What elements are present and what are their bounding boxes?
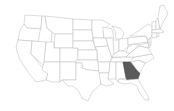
state-maine[interactable] — [158, 5, 168, 29]
state-rhode-island[interactable] — [157, 33, 159, 37]
state-south-dakota[interactable] — [73, 30, 93, 41]
state-arkansas[interactable] — [98, 62, 110, 73]
state-iowa[interactable] — [93, 38, 108, 47]
state-wisconsin[interactable] — [103, 27, 114, 38]
state-connecticut[interactable] — [152, 33, 157, 38]
state-new-mexico[interactable] — [60, 62, 76, 82]
state-wyoming[interactable] — [54, 34, 73, 48]
state-florida[interactable] — [118, 79, 149, 100]
state-washington[interactable] — [24, 15, 42, 29]
state-kansas[interactable] — [78, 50, 97, 60]
state-colorado[interactable] — [60, 48, 78, 62]
state-vermont[interactable] — [152, 21, 156, 30]
state-massachusetts[interactable] — [152, 29, 164, 33]
us-map — [0, 0, 174, 111]
state-north-dakota[interactable] — [73, 19, 92, 30]
state-ohio[interactable] — [119, 38, 128, 51]
states-layer — [16, 5, 168, 101]
